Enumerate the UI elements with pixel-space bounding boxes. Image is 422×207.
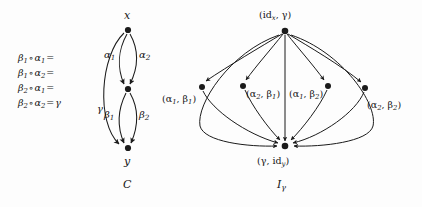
figure-canvas — [0, 0, 422, 207]
left-diagram — [104, 27, 137, 151]
label-gamma-arc: γ — [97, 104, 103, 114]
node-x — [125, 27, 131, 33]
label-node-alpha2-beta1: (α2, β1) — [246, 89, 280, 100]
label-node-alpha1-beta2: (α1, β2) — [289, 89, 323, 100]
label-node-alpha2-beta2: (α2, β2) — [367, 100, 401, 111]
node-y — [125, 145, 131, 151]
label-alpha2: α2 — [139, 50, 150, 61]
right-diagram — [199, 28, 373, 150]
label-node-bottom: (γ, idy) — [257, 156, 289, 167]
composition-equations: β1∘α1= β1∘α2= β2∘α1= β2∘α2=γ — [18, 52, 61, 112]
label-node-alpha1-beta1: (α1, β1) — [162, 94, 196, 105]
caption-right-diagram: Iγ — [277, 178, 286, 192]
label-node-y: y — [124, 156, 130, 167]
equation-row: β2∘α1= — [18, 82, 61, 97]
equation-row: β2∘α2=γ — [18, 97, 61, 112]
equation-row: β1∘α1= — [18, 52, 61, 67]
label-beta1: β1 — [104, 110, 114, 121]
label-node-x: x — [124, 10, 130, 21]
edge-top-to-n1 — [206, 34, 282, 81]
caption-left-diagram: C — [123, 178, 131, 191]
label-node-top: (idx, γ) — [259, 10, 291, 21]
node-alpha1-beta2 — [325, 83, 331, 89]
node-alpha1-beta1 — [199, 84, 205, 90]
label-alpha1: α1 — [104, 50, 115, 61]
node-top — [282, 28, 289, 35]
edge-beta2 — [130, 93, 137, 143]
edge-alpha1 — [119, 34, 127, 84]
edge-beta1 — [119, 93, 126, 143]
node-mid — [125, 86, 131, 92]
label-beta2: β2 — [139, 110, 149, 121]
edge-alpha2 — [130, 34, 136, 84]
equation-row: β1∘α2= — [18, 67, 61, 82]
node-alpha2-beta2 — [362, 85, 368, 91]
node-bottom — [282, 143, 289, 150]
